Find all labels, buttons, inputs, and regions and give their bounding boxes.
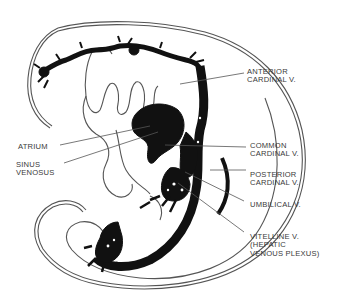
label-posterior-cardinal-vein: POSTERIOR CARDINAL V. bbox=[250, 171, 299, 188]
label-line: CARDINAL V. bbox=[247, 76, 296, 84]
label-vitelline-vein: VITELLINE V. (HEPATIC VENOUS PLEXUS) bbox=[250, 233, 319, 258]
venous-system bbox=[34, 36, 228, 272]
label-line: CARDINAL V. bbox=[250, 179, 299, 187]
label-sinus-venosus: SINUS VENOSUS bbox=[16, 161, 55, 178]
label-common-cardinal-vein: COMMON CARDINAL V. bbox=[250, 142, 299, 159]
label-line: CARDINAL V. bbox=[250, 150, 299, 158]
label-line: VENOSUS bbox=[16, 169, 55, 177]
label-line: VENOUS PLEXUS) bbox=[250, 250, 319, 258]
label-anterior-cardinal-vein: ANTERIOR CARDINAL V. bbox=[247, 68, 296, 85]
label-atrium: ATRIUM bbox=[18, 143, 48, 151]
label-line: ATRIUM bbox=[18, 143, 48, 151]
label-line: UMBILICAL V. bbox=[250, 201, 301, 209]
label-umbilical-vein: UMBILICAL V. bbox=[250, 201, 301, 209]
